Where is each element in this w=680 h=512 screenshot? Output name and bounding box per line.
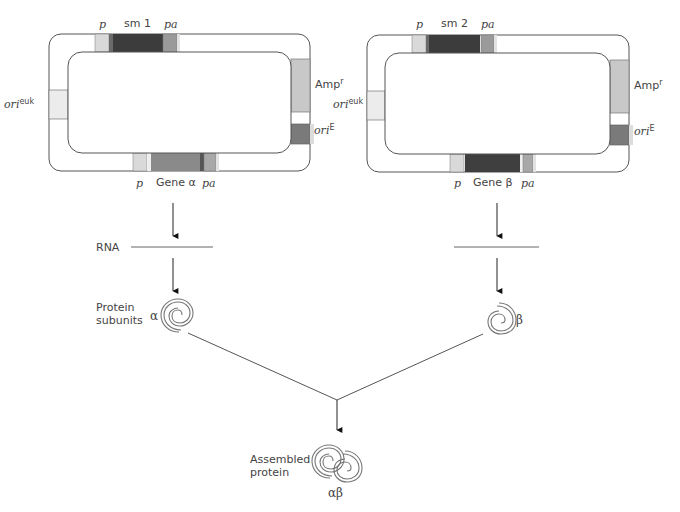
beta-label: β — [516, 313, 523, 327]
plasmid-1-top-polyA-edge — [177, 34, 180, 52]
plasmid-1-marker-sm1-body — [113, 34, 163, 52]
plasmid-2-ori-euk-label: orieuk — [333, 97, 363, 111]
alpha-beta-label: αβ — [328, 486, 343, 500]
plasmid-1-marker-label: sm 1 — [124, 17, 151, 30]
alpha-subunit-spiral-icon — [161, 299, 193, 332]
plasmid-2-amp-label: Ampr — [634, 78, 663, 92]
plasmid-1-inner — [68, 52, 291, 153]
assembled-protein-label-line1: Assembled — [250, 453, 310, 466]
plasmid-2-spacer — [520, 154, 523, 172]
alpha-beta-complex-icon — [312, 445, 362, 482]
rna-label: RNA — [96, 241, 120, 254]
plasmid-1-bottom-polyA — [204, 153, 216, 171]
plasmid-2-ori-e-label: oriE — [634, 124, 654, 138]
plasmid-2-ori-e-edge — [629, 125, 633, 145]
plasmid-2-bottom-polyA — [523, 154, 533, 172]
plasmid-1-ori-euk-label: orieuk — [4, 97, 34, 111]
plasmid-2-bottom-polyA-label: pa — [521, 177, 535, 190]
alpha-to-assembly-line — [188, 333, 337, 400]
plasmid-2-top-polyA-label: pa — [481, 18, 495, 31]
plasmid-1-marker-sm1 — [109, 34, 113, 52]
plasmid-1-amp-label: Ampr — [315, 77, 344, 91]
plasmid-1-bottom-promoter-label: p — [136, 177, 143, 190]
plasmid-1-top-promoter — [95, 34, 109, 52]
plasmid-2-gene-label: Gene β — [473, 176, 513, 189]
beta-subunit-spiral-icon — [488, 303, 516, 334]
plasmid-2-bottom-polyA-edge — [533, 154, 536, 172]
plasmid-2-bottom-promoter-label: p — [454, 177, 461, 190]
plasmid-1-bottom-polyA-label: pa — [202, 177, 216, 190]
plasmid-2-marker-start — [426, 35, 429, 53]
protein-subunits-label-line2: subunits — [96, 314, 143, 327]
plasmid-1-bottom-polyA-edge — [216, 153, 219, 171]
plasmid-1-bottom-promoter — [133, 153, 147, 171]
plasmid-2-top-promoter — [412, 35, 426, 53]
plasmid-2-ori-euk — [367, 91, 385, 120]
plasmid-2-gene-beta — [465, 154, 520, 172]
plasmid-1-gene-label: Gene α — [156, 176, 196, 189]
plasmid-1-ori-euk — [49, 90, 68, 119]
plasmid-1-top-polyA-label: pa — [164, 18, 178, 31]
plasmid-2-top-polyA — [481, 35, 494, 53]
plasmid-2-top-polyA-edge — [494, 35, 497, 53]
plasmid-1-spacer — [147, 153, 151, 171]
plasmid-2-bottom-promoter — [450, 154, 464, 172]
protein-subunits-label-line1: Protein — [96, 301, 135, 314]
plasmid-2-marker-sm2 — [429, 35, 480, 53]
plasmid-1-top-polyA — [163, 34, 177, 52]
plasmid-2-ori-e — [610, 125, 629, 145]
plasmid-1-gene-alpha-end — [200, 153, 204, 171]
plasmid-1-top-promoter-label: p — [99, 18, 106, 31]
plasmid-2-amp-r — [610, 60, 629, 113]
plasmid-1-ori-e — [291, 124, 310, 144]
plasmid-1-amp-r — [291, 59, 310, 112]
beta-to-assembly-line — [337, 334, 483, 400]
plasmid-2: p sm 2 pa p Gene β pa orieuk Ampr oriE — [333, 17, 663, 190]
plasmid-1: p sm 1 pa p Gene α pa orieuk Ampr oriE — [4, 17, 344, 190]
assembled-protein-label-line2: protein — [250, 466, 289, 479]
alpha-label: α — [150, 309, 158, 323]
plasmid-1-ori-e-label: oriE — [314, 123, 334, 137]
plasmid-2-marker-label: sm 2 — [441, 17, 468, 30]
plasmid-2-top-promoter-label: p — [416, 18, 423, 31]
plasmid-2-inner — [385, 53, 610, 154]
plasmid-expression-diagram: p sm 1 pa p Gene α pa orieuk Ampr oriE p — [0, 0, 680, 512]
plasmid-1-gene-alpha — [151, 153, 201, 171]
